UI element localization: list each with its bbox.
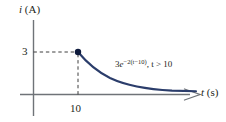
y-axis-label: i (A) [19,4,40,15]
equation-exponent: −2(t−10) [124,58,147,65]
curve-start-point-marker [75,49,81,55]
equation-base-e: e [120,59,124,69]
x-tick-label: 10 [70,103,81,114]
curve-equation-label: 3e−2(t−10), t > 10 [115,58,172,69]
exponential-decay-figure: i (A) t (s) 3 10 3e−2(t−10), t > 10 [0,0,226,122]
equation-condition: , t > 10 [147,59,173,69]
y-axis-label-unit: (A) [25,3,40,15]
y-tick-label: 3 [22,46,28,57]
x-axis-label: t (s) [201,87,218,98]
x-axis-label-unit: (s) [207,86,219,98]
plot-canvas [0,0,226,122]
